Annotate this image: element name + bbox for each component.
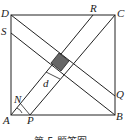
band-line-dq	[11, 15, 115, 96]
label-d-width: d	[43, 77, 49, 89]
label-p: P	[26, 114, 34, 126]
band-line-pc	[30, 15, 115, 115]
figure-caption: 第 5 题答图	[34, 135, 87, 140]
label-a: A	[2, 114, 10, 126]
label-n: N	[13, 93, 22, 105]
band-line-ar	[11, 15, 93, 115]
shaded-overlap	[51, 53, 69, 71]
band-line-sb	[11, 33, 115, 115]
angle-mark	[17, 108, 22, 113]
label-r: R	[89, 2, 97, 14]
label-q: Q	[116, 88, 124, 100]
label-d-vertex: D	[0, 7, 9, 19]
geometry-figure: D C R S Q B A P N d 第 5 题答图	[0, 0, 126, 140]
label-b: B	[116, 110, 123, 122]
label-s: S	[1, 25, 7, 37]
label-c: C	[117, 7, 125, 19]
